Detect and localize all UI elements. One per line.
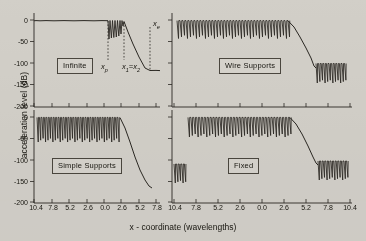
curve-infinite-spikes bbox=[108, 21, 124, 40]
curve-wire-rolloff bbox=[288, 21, 316, 68]
curve-fixed-rolloff bbox=[290, 118, 318, 165]
curve-fixed-upper-train bbox=[188, 117, 291, 137]
curve-fixed-lower-train bbox=[318, 161, 348, 180]
plot-svg bbox=[0, 0, 366, 241]
curve-wire-lower-train bbox=[316, 64, 346, 84]
curve-fixed-left-edge-train bbox=[174, 164, 186, 183]
curve-simple-rolloff bbox=[120, 118, 152, 188]
curve-wire-upper-train bbox=[177, 21, 290, 39]
figure-container: acceleration level (dB) x - coordinate (… bbox=[0, 0, 366, 241]
curve-infinite-rolloff bbox=[124, 22, 150, 71]
curve-simple-upper-train bbox=[37, 117, 119, 142]
